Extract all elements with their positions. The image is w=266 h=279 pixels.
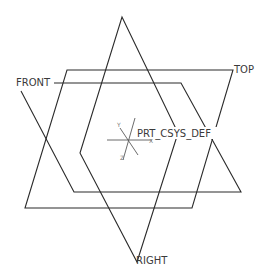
z-axis-line bbox=[120, 128, 138, 155]
plane-label-front[interactable]: FRONT bbox=[16, 77, 51, 88]
y-axis-label: Y bbox=[116, 121, 121, 128]
z-axis-label: Z bbox=[120, 154, 124, 161]
coordinate-system[interactable]: X Y Z PRT_CSYS_DEF bbox=[107, 118, 217, 161]
model-viewport[interactable]: TOP FRONT RIGHT X Y Z PRT_CSYS_DEF bbox=[0, 0, 266, 279]
y-axis-line bbox=[123, 118, 135, 160]
csys-label[interactable]: PRT_CSYS_DEF bbox=[137, 128, 211, 140]
plane-label-top[interactable]: TOP bbox=[233, 64, 254, 75]
plane-label-right[interactable]: RIGHT bbox=[136, 255, 168, 266]
